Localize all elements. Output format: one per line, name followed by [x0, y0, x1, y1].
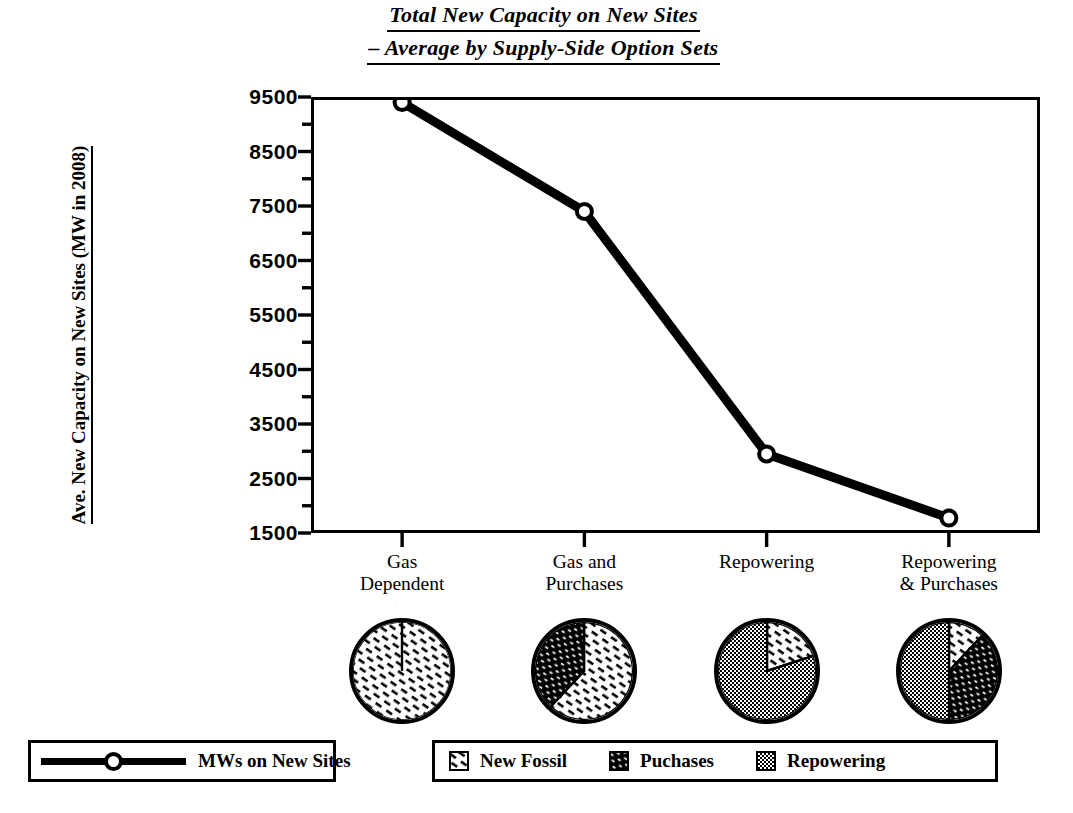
y-axis-title: Ave. New Capacity on New Sites (MW in 20… [68, 85, 108, 585]
legend-line-label: MWs on New Sites [198, 750, 351, 772]
legend-line-swatch [41, 751, 186, 771]
repowering-and-purchases-pie[interactable] [896, 618, 1002, 724]
y-tick-label: 4500 [178, 358, 298, 382]
legend-open-circle-icon [104, 752, 123, 771]
y-tick-label: 7500 [178, 194, 298, 218]
y-axis-tick-labels: 950085007500650055004500350025001500 [170, 0, 298, 813]
y-tick-label: 3500 [178, 412, 298, 436]
chart-title-line-2: – Average by Supply-Side Option Sets [367, 35, 721, 65]
data-point-marker[interactable] [395, 100, 410, 110]
line-series-path [402, 102, 949, 518]
gas-and-purchases-pie[interactable] [531, 618, 637, 724]
legend-swatch-light-dash-hatch [449, 751, 469, 771]
y-tick-label: 6500 [178, 249, 298, 273]
legend-pie-categories[interactable]: New Fossil Puchases [432, 740, 998, 782]
chart-title: Total New Capacity on New Sites – Averag… [0, 2, 1073, 65]
legend-swatch-dark-diagonal-hatch [609, 751, 629, 771]
legend-line-series[interactable]: MWs on New Sites [28, 740, 336, 782]
x-tick-label-line: Purchases [489, 573, 679, 595]
gas-dependent-pie[interactable] [349, 618, 455, 724]
plot-area [311, 97, 1040, 533]
x-tick-label-line: Repowering [672, 551, 862, 573]
chart-canvas: Total New Capacity on New Sites – Averag… [0, 0, 1073, 813]
y-tick-label: 8500 [178, 140, 298, 164]
y-tick-label: 2500 [178, 467, 298, 491]
x-tick-label-line: Gas [307, 551, 497, 573]
x-tick-label-line: Gas and [489, 551, 679, 573]
data-point-marker[interactable] [759, 446, 774, 461]
y-tick-label: 5500 [178, 303, 298, 327]
chart-title-line-1: Total New Capacity on New Sites [387, 2, 700, 32]
x-tick-label-line: Dependent [307, 573, 497, 595]
x-tick-label: Repowering [672, 551, 862, 573]
legend-item[interactable]: Puchases [609, 750, 714, 772]
line-series-svg [314, 100, 1037, 530]
x-tick-label-line: Repowering [854, 551, 1044, 573]
data-point-marker[interactable] [577, 204, 592, 219]
x-tick-label-line: & Purchases [854, 573, 1044, 595]
y-tick-label: 9500 [178, 85, 298, 109]
legend-item[interactable]: New Fossil [449, 750, 567, 772]
legend-swatch-gray-dot-checker [756, 751, 776, 771]
legend-item[interactable]: Repowering [756, 750, 885, 772]
x-tick-label: GasDependent [307, 551, 497, 595]
x-tick-label: Repowering& Purchases [854, 551, 1044, 595]
legend-item-label: Repowering [787, 750, 885, 772]
legend-item-label: New Fossil [480, 750, 567, 772]
y-tick-label: 1500 [178, 521, 298, 545]
y-axis-title-text: Ave. New Capacity on New Sites (MW in 20… [68, 146, 93, 525]
x-tick-label: Gas andPurchases [489, 551, 679, 595]
legend-item-label: Puchases [640, 750, 714, 772]
pie-slice[interactable] [900, 622, 949, 720]
repowering-pie[interactable] [714, 618, 820, 724]
data-point-marker[interactable] [941, 511, 956, 526]
